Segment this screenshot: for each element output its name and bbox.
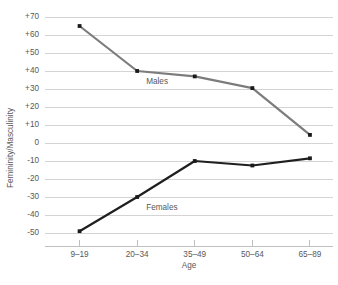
series-label-females: Females <box>146 203 177 212</box>
data-point-marker <box>308 156 312 160</box>
y-axis-tick-label: +50 <box>25 48 39 57</box>
x-axis-tick-label: 65–89 <box>299 250 322 259</box>
data-point-marker <box>135 195 139 199</box>
data-point-marker <box>135 69 139 73</box>
chart-container: +70+60+50+40+30+20+100-10-20-30-40-50 9–… <box>0 0 338 285</box>
y-axis-tick-label: -30 <box>27 192 39 201</box>
data-point-marker <box>308 133 312 137</box>
data-point-marker <box>193 75 197 79</box>
series-label-males: Males <box>146 77 168 86</box>
y-axis-tick-label: +40 <box>25 66 39 75</box>
y-axis-tick-label: -40 <box>27 210 39 219</box>
y-axis-tick-label: -10 <box>27 156 39 165</box>
x-axis-title: Age <box>182 261 197 270</box>
line-chart: +70+60+50+40+30+20+100-10-20-30-40-50 9–… <box>0 0 338 285</box>
x-axis-tick-label: 50–64 <box>241 250 264 259</box>
y-axis-tick-label: +70 <box>25 12 39 21</box>
data-point-marker <box>78 229 82 233</box>
y-axis-tick-label: +30 <box>25 84 39 93</box>
chart-background <box>0 0 338 285</box>
x-axis-tick-label: 35–49 <box>183 250 206 259</box>
x-axis-tick-label: 20–34 <box>126 250 149 259</box>
y-axis-tick-label: +10 <box>25 120 39 129</box>
y-axis-tick-label: -20 <box>27 174 39 183</box>
y-axis-tick-label: -50 <box>27 228 39 237</box>
data-point-marker <box>193 159 197 163</box>
y-axis-tick-label: +60 <box>25 30 39 39</box>
data-point-marker <box>78 24 82 28</box>
x-axis-tick-label: 9–19 <box>70 250 89 259</box>
data-point-marker <box>250 164 254 168</box>
y-axis-tick-label: 0 <box>34 138 39 147</box>
data-point-marker <box>250 86 254 90</box>
y-axis-title: Femininity/Masculinity <box>6 107 15 188</box>
y-axis-tick-label: +20 <box>25 102 39 111</box>
